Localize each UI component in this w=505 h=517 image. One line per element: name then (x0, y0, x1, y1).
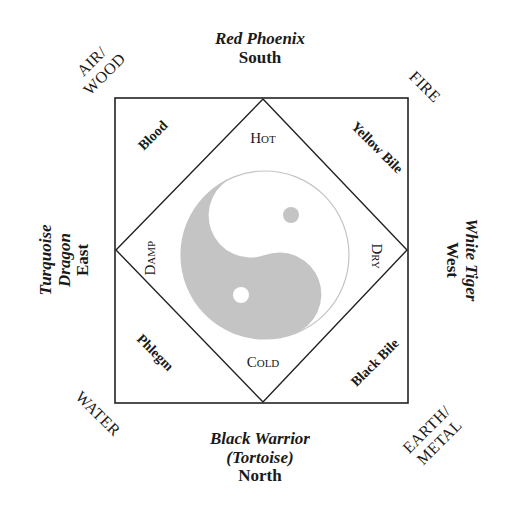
east-label: Turquoise Dragon East (37, 200, 93, 320)
south-animal: Red Phoenix (190, 30, 330, 49)
quality-damp: Damp (142, 218, 159, 298)
north-label: Black Warrior (Tortoise) North (185, 430, 335, 486)
east-animal-line2: Dragon (56, 200, 75, 320)
east-animal-line1: Turquoise (37, 200, 56, 320)
east-direction: East (74, 200, 93, 320)
west-direction: West (443, 200, 462, 320)
quality-hot: Hot (223, 130, 303, 147)
north-direction: North (185, 467, 335, 486)
south-label: Red Phoenix South (190, 30, 330, 67)
yin-yang-icon (157, 162, 349, 363)
north-animal: Black Warrior (185, 430, 335, 449)
quality-dry: Dry (369, 216, 386, 296)
south-direction: South (190, 49, 330, 68)
north-animal-alt: (Tortoise) (185, 449, 335, 468)
west-animal: White Tiger (461, 200, 480, 320)
west-label: White Tiger West (443, 200, 480, 320)
quality-cold: Cold (223, 354, 303, 371)
